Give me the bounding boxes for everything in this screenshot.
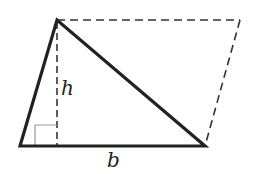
triangle-area-diagram: h b [0,0,257,174]
right-angle-marker [35,125,57,146]
triangle [20,20,205,146]
height-label: h [61,76,74,100]
parallelogram-right-edge [205,20,240,146]
base-label: b [107,148,120,172]
